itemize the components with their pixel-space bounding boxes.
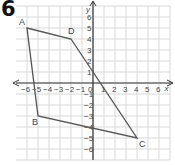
x-tick-label: 3 (123, 85, 128, 94)
coordinate-plane: xy−6−5−4−3−2−10123456654321−1−2−3−4−5−6A… (0, 0, 175, 165)
x-tick-label: −6 (21, 85, 31, 94)
vertex-label-b: B (32, 117, 38, 127)
x-tick-label: 6 (156, 85, 161, 94)
x-tick-label: −5 (32, 85, 42, 94)
vertex-label-d: D (68, 26, 75, 36)
y-tick-label: 4 (87, 35, 92, 44)
y-tick-label: 5 (87, 24, 92, 33)
x-tick-label: −4 (43, 85, 53, 94)
vertex-label-c: C (139, 139, 146, 149)
vertex-label-a: A (19, 17, 25, 27)
coordinate-diagram: 6 xy−6−5−4−3−2−10123456654321−1−2−3−4−5−… (0, 0, 175, 165)
y-tick-label: 3 (87, 46, 92, 55)
y-tick-label: −2 (84, 101, 94, 110)
y-tick-label: −5 (84, 134, 94, 143)
x-tick-label: 5 (145, 85, 150, 94)
y-tick-label: −3 (84, 112, 94, 121)
x-tick-label: −3 (54, 85, 64, 94)
y-tick-label: 6 (87, 13, 92, 22)
x-tick-label: 2 (112, 85, 117, 94)
x-tick-label: 4 (134, 85, 139, 94)
y-tick-label: −6 (84, 145, 94, 154)
x-tick-label: −2 (65, 85, 75, 94)
y-tick-label: −1 (84, 90, 94, 99)
